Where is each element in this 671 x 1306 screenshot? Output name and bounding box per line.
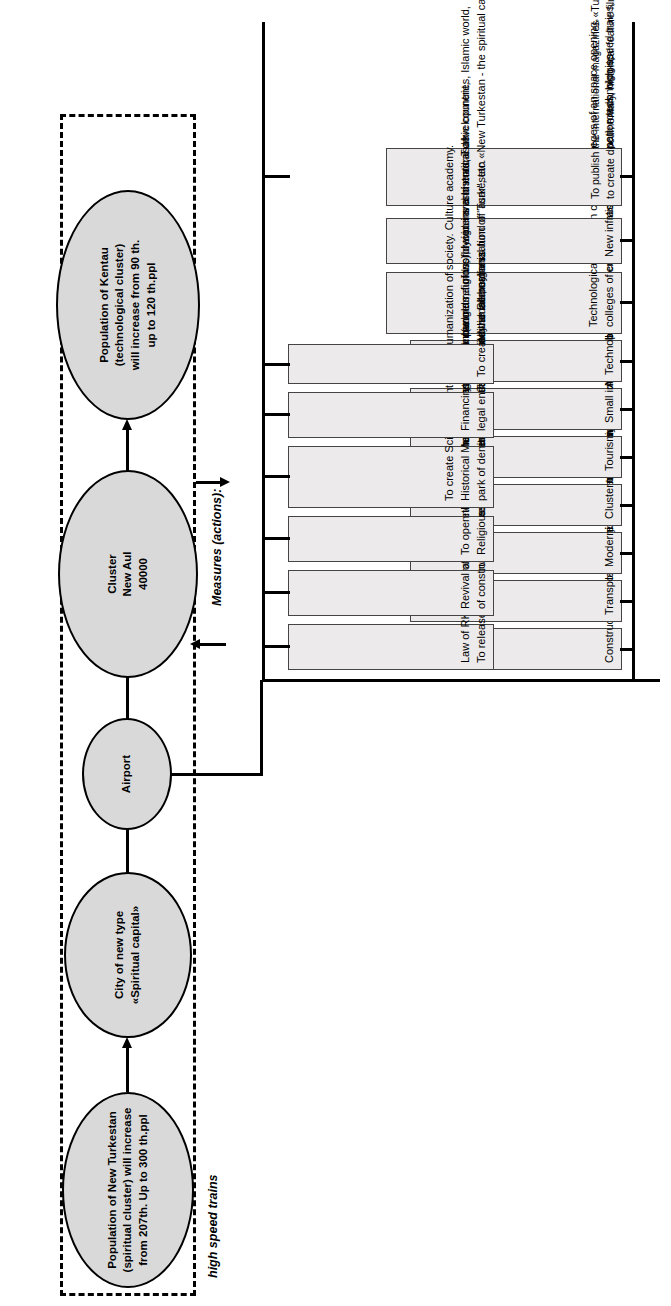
- measure-stub: [620, 553, 634, 556]
- diagram-stage: Population of New Turkestan (spiritual c…: [0, 0, 671, 1306]
- node-line: will increase from 90 th.: [128, 240, 144, 370]
- node-line: from 207th. Up to 300 th.ppl: [136, 1108, 152, 1273]
- measure-stub: [262, 414, 290, 417]
- connector-cluster-to-kentau: [126, 428, 129, 472]
- connector-city-to-airport: [126, 828, 129, 874]
- measure-box-scientific-center: To create Scientific center of a humaniz…: [288, 446, 494, 508]
- measure-box-colleges: Technological, agrarian colleges, colleg…: [386, 272, 622, 334]
- node-line: Airport: [119, 755, 135, 793]
- node-line: (technological cluster): [112, 240, 128, 370]
- node-line: (spiritual cluster) will increase: [120, 1108, 136, 1273]
- measure-box-new-infrastructure: New infrastructure (airport, roads, high…: [386, 218, 622, 264]
- label-high-speed-trains: high speed trains: [206, 1175, 220, 1279]
- measure-text: Tourism cluster «A great Silk way»: [602, 443, 618, 471]
- measure-text: To publish the international magazines «…: [588, 155, 603, 199]
- airport-to-measures-link: [260, 680, 263, 776]
- measures-arrow-shaft-left: [198, 644, 226, 647]
- measure-text: Modernization of technological capacitie…: [602, 539, 618, 567]
- measure-text: legal entities and individuals, organiza…: [474, 399, 490, 431]
- measure-stub: [262, 538, 290, 541]
- measures-trunk-lower: [262, 22, 265, 682]
- measure-stub: [620, 457, 634, 460]
- measure-text: New infrastructure (airport, roads, high…: [602, 225, 618, 257]
- connector-airport-to-cluster: [126, 676, 129, 720]
- arrowhead-cluster-to-kentau: [122, 419, 132, 430]
- measures-arrowhead-down: [220, 477, 230, 487]
- measures-block-left-spine: [262, 680, 660, 683]
- connector-nt-to-city: [126, 1046, 129, 1092]
- measure-stub: [620, 409, 634, 412]
- measure-stub-side-bottom: [262, 176, 290, 179]
- measure-box-free-economic-zone: Law of RK about granting "free economic …: [288, 624, 494, 670]
- node-cluster-new-aul: Cluster New Aul 40000: [58, 470, 198, 678]
- measure-stub: [262, 592, 290, 595]
- node-line: Cluster: [105, 552, 121, 597]
- node-line: New Aul: [120, 552, 136, 597]
- measure-text: Small innovative business center: [602, 395, 618, 423]
- node-line: «Spiritual capital»: [128, 906, 144, 1004]
- measures-arrowhead-up: [190, 639, 200, 649]
- measure-stub-side-top: [620, 176, 634, 179]
- node-line: City of new type: [112, 906, 128, 1004]
- measure-box-international-fund: To create the International fund of Turk…: [288, 344, 494, 384]
- node-city-spiritual-capital: City of new type «Spiritual capital»: [64, 872, 192, 1038]
- measure-text: Transport and logistic center «Silk way»: [602, 587, 618, 615]
- measure-text: Religious studies center.: [474, 523, 490, 555]
- measure-stub: [620, 649, 634, 652]
- node-line: Population of Kentau: [97, 240, 113, 370]
- measure-text: Financing sources: budgets, funds, forei…: [458, 399, 474, 431]
- measure-text: to create documentary, historical featur…: [603, 155, 618, 199]
- node-line: Population of New Turkestan: [105, 1108, 121, 1273]
- measure-text: park of denuclearized safety "Baikonur S…: [474, 453, 490, 501]
- measure-stub: [620, 361, 634, 364]
- airport-to-measures-stub: [170, 774, 262, 777]
- measure-text: colleges of communication and informatio…: [602, 279, 618, 327]
- measure-stub: [262, 646, 290, 649]
- label-measures-actions: Measures (actions):: [210, 489, 224, 606]
- measure-box-image-of-kazakhstan: To publish the international magazines «…: [386, 148, 622, 206]
- measure-text: Construction of plants of the 6th techno…: [602, 635, 618, 663]
- measure-stub: [620, 240, 634, 243]
- measure-stub: [620, 302, 634, 305]
- measure-box-financing-sources: Financing sources: budgets, funds, forei…: [288, 392, 494, 438]
- measure-text: Revival of history and culture of an ant…: [458, 577, 474, 609]
- measure-text: Technological, agrarian colleges, colleg…: [586, 279, 602, 327]
- measure-text: To open the International academy of rel…: [458, 523, 474, 555]
- measure-text: To release the territory of Turkestan fr…: [474, 631, 490, 663]
- measure-text: To create Scientific center of a humaniz…: [442, 453, 458, 501]
- arrowhead-nt-to-city: [122, 1037, 132, 1048]
- node-line: 40000: [136, 552, 152, 597]
- diagram-canvas: Population of New Turkestan (spiritual c…: [0, 0, 671, 1306]
- measure-text: Historical Museum treasury, Park panoram…: [458, 453, 474, 501]
- measure-box-academy-of-religion: To open the International academy of rel…: [288, 516, 494, 562]
- measure-text: of construction of the spiritual capital…: [474, 577, 490, 609]
- measures-trunk-upper: [632, 22, 635, 682]
- measure-stub: [262, 476, 290, 479]
- measure-text: To create the International fund of Turk…: [474, 351, 490, 377]
- measure-stub: [620, 505, 634, 508]
- node-population-kentau: Population of Kentau (technological clus…: [56, 190, 200, 420]
- measure-box-revival-history-culture: Revival of history and culture of an ant…: [288, 570, 494, 616]
- measure-text: Cluster of the New Aul: [602, 491, 618, 519]
- measures-arrow-shaft-right: [196, 482, 222, 485]
- node-population-new-turkestan: Population of New Turkestan (spiritual c…: [62, 1092, 194, 1288]
- measure-text: Technopolises: [602, 347, 618, 375]
- node-line: up to 120 th.ppl: [144, 240, 160, 370]
- node-airport: Airport: [82, 718, 172, 830]
- measure-text: Law of RK about granting "free economic …: [458, 631, 474, 663]
- measure-stub: [620, 601, 634, 604]
- measure-stub: [262, 364, 290, 367]
